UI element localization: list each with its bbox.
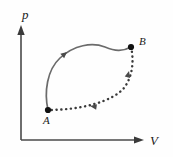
- volume-axis: V: [21, 133, 160, 148]
- state-b-dot: [128, 44, 134, 50]
- pv-diagram-figure: p V A B: [0, 0, 173, 157]
- state-point-b: B: [128, 35, 146, 50]
- state-a-dot: [45, 107, 51, 113]
- pv-diagram-canvas: p V A B: [0, 0, 173, 157]
- state-point-a: A: [42, 107, 51, 126]
- pressure-axis-arrowhead: [17, 25, 24, 35]
- state-a-label: A: [42, 114, 50, 126]
- process-path-a-to-b: [46, 45, 131, 110]
- volume-axis-arrowhead: [134, 136, 144, 143]
- volume-axis-label: V: [150, 133, 160, 148]
- pressure-axis: p: [17, 7, 29, 140]
- process-solid-curve: [46, 45, 131, 110]
- state-b-label: B: [139, 35, 146, 47]
- pressure-axis-label: p: [21, 7, 29, 22]
